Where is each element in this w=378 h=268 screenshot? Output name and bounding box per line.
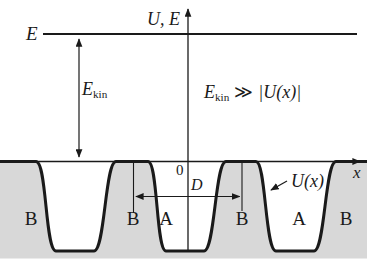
origin-label: 0	[176, 163, 184, 178]
region-label-a1: A	[159, 209, 173, 228]
x-axis-label: x	[353, 164, 361, 181]
energy-level-label: E	[26, 24, 38, 43]
condition-label: Ekin≫|U(x)|	[204, 83, 301, 101]
potential-pointer-arrow	[271, 181, 287, 190]
ekin-sub: kin	[93, 88, 107, 100]
region-label-b2: B	[127, 209, 140, 228]
diagram-canvas	[0, 0, 378, 268]
condition-rhs: |U(x)|	[258, 82, 301, 102]
region-label-b3: B	[236, 209, 249, 228]
much-greater-than-symbol: ≫	[234, 82, 253, 102]
potential-label: U(x)	[291, 172, 324, 190]
region-label-a2: A	[292, 209, 306, 228]
periodic-potential-figure: U, E E Ekin Ekin≫|U(x)| 0 D U(x) x B B A…	[0, 0, 378, 268]
region-label-b4: B	[340, 209, 353, 228]
ekin-label: Ekin	[82, 80, 107, 98]
condition-base: E	[204, 82, 215, 102]
y-axis-title: U, E	[147, 10, 180, 28]
ekin-base: E	[82, 79, 93, 99]
period-label: D	[191, 177, 203, 193]
condition-sub: kin	[215, 91, 229, 103]
region-label-b1: B	[25, 209, 38, 228]
